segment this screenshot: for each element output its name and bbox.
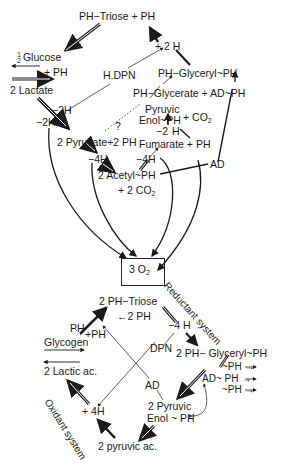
- minus-4h-a: −4H: [88, 153, 108, 165]
- glucose-label: 12Glucose: [17, 51, 61, 64]
- minus-2ph-label: ←2 PH: [117, 310, 151, 322]
- glycerate-label: PH−Glycerate + AD~PH: [133, 87, 245, 99]
- dpn-label: DPN: [150, 342, 172, 354]
- pyruvic2-label: 2 Pyruvic: [148, 400, 191, 412]
- question-mark: ?: [115, 120, 121, 132]
- ph-label: PH: [70, 322, 85, 334]
- hdpn-label: H.DPN: [103, 69, 136, 81]
- pyruvic-ac-label: 2 pyruvic ac.: [98, 440, 157, 452]
- fumarate-label: Fumarate + PH: [139, 138, 211, 150]
- plus-ph-left-label: + PH: [44, 66, 68, 78]
- lactate-label: 2 Lactate: [10, 84, 53, 96]
- minus-2h-c: −2: [156, 125, 168, 137]
- plus-4h-label: + 4H: [82, 405, 104, 417]
- co2-label: + CO2: [183, 111, 212, 127]
- o2-label: 3 O2: [129, 263, 150, 279]
- plus-2h-label: + 2 H: [155, 40, 180, 52]
- ph-out-1: ~PH →: [222, 361, 255, 373]
- enol2-label: Enol ~ PH: [147, 412, 195, 424]
- minus-2h-a: −2H: [52, 104, 72, 116]
- minus-4h-b: −4H: [136, 153, 156, 165]
- acetyl-label: 2 Acetyl~PH: [98, 169, 156, 181]
- ad-label: AD: [210, 158, 225, 170]
- glyceryl-label: PH−Glyceryl~PH: [158, 67, 237, 79]
- minus-4h-label: −4 H: [168, 319, 190, 331]
- triose2-label: 2 PH−Triose: [99, 295, 157, 307]
- lactic-label: 2 Lactic ac.: [44, 365, 97, 377]
- plus-2co2-label: + 2 CO2: [118, 184, 155, 200]
- pyruvate-label: 2 Pyruvate+2 PH: [57, 136, 137, 148]
- ph-out-3: ~PH →: [222, 384, 255, 396]
- glyceryl2-label: 2 PH− Glyceryl~PH: [176, 347, 267, 359]
- minus-2h-b: −2H: [36, 116, 56, 128]
- glycogen-label: Glycogen: [44, 336, 88, 348]
- h-c: H: [172, 125, 180, 137]
- half-fraction: 12: [17, 52, 21, 64]
- diagram-arrows: [0, 0, 282, 471]
- ph-triose-label: PH−Triose + PH: [79, 10, 155, 22]
- ad2-label: AD: [145, 379, 160, 391]
